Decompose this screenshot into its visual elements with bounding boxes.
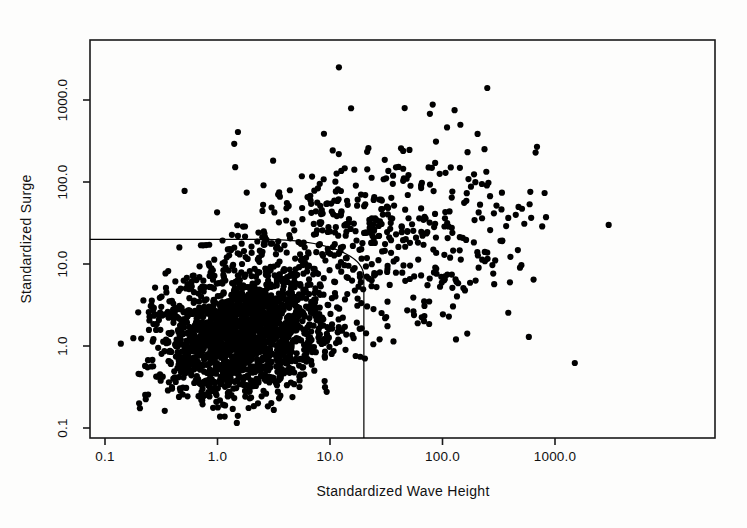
scatter-point [270,158,276,164]
scatter-point [424,229,430,235]
scatter-point [229,232,235,238]
scatter-point [384,299,390,305]
scatter-point [444,124,450,130]
scatter-point [350,243,356,249]
scatter-point [539,223,545,229]
scatter-point [149,357,155,363]
scatter-point [218,355,224,361]
scatter-point [393,231,399,237]
scatter-point [384,203,390,209]
scatter-point [354,320,360,326]
scatter-point [405,192,411,198]
scatter-point [446,313,452,319]
scatter-point [433,266,439,272]
scatter-point [306,315,312,321]
scatter-point [399,229,405,235]
scatter-point [303,331,309,337]
scatter-point [272,325,278,331]
scatter-point [241,248,247,254]
scatter-point [387,282,393,288]
scatter-point [348,105,354,111]
scatter-point [276,395,282,401]
scatter-point [404,307,410,313]
scatter-point [191,289,197,295]
scatter-point [400,262,406,268]
scatter-point [429,165,435,171]
scatter-point [343,255,349,261]
scatter-point [191,344,197,350]
scatter-point [355,284,361,290]
scatter-point [437,171,443,177]
scatter-point [173,353,179,359]
scatter-point [196,263,202,269]
x-axis-title: Standardized Wave Height [316,483,489,499]
scatter-point [453,279,459,285]
scatter-point [318,211,324,217]
scatter-point [263,391,269,397]
scatter-point-outlier [606,222,612,228]
y-tick-label: 10.0 [55,250,70,277]
scatter-point [199,386,205,392]
scatter-point [487,193,493,199]
scatter-point [259,249,265,255]
scatter-point [332,279,338,285]
scatter-point [255,377,261,383]
scatter-point [442,170,448,176]
scatter-point [289,290,295,296]
scatter-point [176,244,182,250]
scatter-point [234,289,240,295]
scatter-point [284,250,290,256]
scatter-point [268,314,274,320]
scatter-point [251,403,257,409]
scatter-point [319,315,325,321]
scatter-point [296,336,302,342]
scatter-point [201,320,207,326]
scatter-point [382,315,388,321]
scatter-point [306,276,312,282]
scatter-point [335,336,341,342]
scatter-point [377,269,383,275]
scatter-point [463,198,469,204]
scatter-point [209,354,215,360]
scatter-point [430,101,436,107]
scatter-point [324,389,330,395]
scatter-point [327,311,333,317]
scatter-point [215,325,221,331]
scatter-point [279,371,285,377]
scatter-point [315,335,321,341]
scatter-point [248,244,254,250]
scatter-point [265,325,271,331]
scatter-point [311,368,317,374]
scatter-point [310,266,316,272]
scatter-point [391,202,397,208]
scatter-point [491,281,497,287]
scatter-point [317,181,323,187]
scatter-point [291,369,297,375]
scatter-point [311,221,317,227]
scatter-point [261,302,267,308]
scatter-point [226,379,232,385]
scatter-point [399,223,405,229]
scatter-point [259,371,265,377]
y-tick-label: 1000.0 [55,79,70,122]
scatter-point [153,373,159,379]
scatter-point [217,318,223,324]
scatter-point [499,190,505,196]
scatter-point [191,272,197,278]
scatter-point [198,242,204,248]
scatter-point [402,105,408,111]
scatter-point [177,385,183,391]
scatter-point [261,345,267,351]
scatter-point [263,272,269,278]
scatter-point [388,237,394,243]
scatter-point [285,327,291,333]
scatter-point [307,193,313,199]
scatter-point [118,341,124,347]
scatter-point [390,338,396,344]
scatter-point [542,190,548,196]
scatter-point [471,171,477,177]
scatter-point [168,311,174,317]
scatter-point [194,315,200,321]
scatter-point [534,144,540,150]
scatter-point [181,316,187,322]
